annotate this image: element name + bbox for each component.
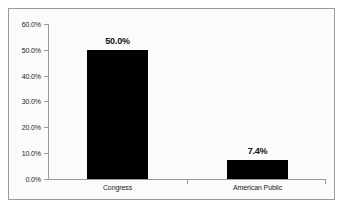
y-axis-tick-label: 0.0% <box>25 176 41 183</box>
y-axis-tick-mark <box>44 50 48 51</box>
y-axis-line <box>48 24 49 180</box>
y-axis-tick-label: 20.0% <box>22 124 41 131</box>
bar-value-label: 50.0% <box>87 37 148 46</box>
y-axis-tick-label: 50.0% <box>22 47 41 54</box>
y-axis-tick-mark <box>44 127 48 128</box>
bar-value-label: 7.4% <box>227 147 288 156</box>
x-axis-tick-mark <box>325 180 326 184</box>
bar-congress[interactable] <box>87 50 148 179</box>
y-axis-tick-mark <box>44 76 48 77</box>
x-axis-tick-mark <box>187 180 188 184</box>
chart-frame: 60.0% 50.0% 40.0% 30.0% 20.0% 10.0% 0.0%… <box>8 8 335 200</box>
y-axis-tick-mark <box>44 24 48 25</box>
y-axis-tick-label: 30.0% <box>22 98 41 105</box>
x-axis-category-label: American Public <box>215 184 300 191</box>
x-axis-category-label: Congress <box>79 184 156 191</box>
y-axis-tick-mark <box>44 179 48 180</box>
y-axis-tick-label: 60.0% <box>22 21 41 28</box>
plot-area: 60.0% 50.0% 40.0% 30.0% 20.0% 10.0% 0.0%… <box>9 9 336 201</box>
y-axis-tick-label: 40.0% <box>22 73 41 80</box>
y-axis-tick-label: 10.0% <box>22 150 41 157</box>
y-axis-tick-mark <box>44 101 48 102</box>
y-axis-tick-mark <box>44 153 48 154</box>
bar-american-public[interactable] <box>227 160 288 179</box>
